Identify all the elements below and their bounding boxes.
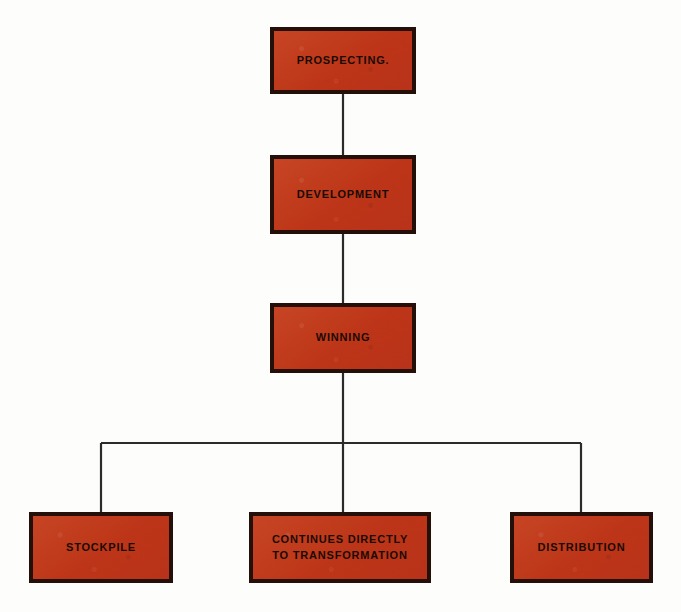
node-winning: WINNING — [270, 303, 416, 373]
node-development: DEVELOPMENT — [270, 155, 416, 234]
node-distribution-label: DISTRIBUTION — [532, 540, 632, 556]
node-stockpile: STOCKPILE — [29, 512, 173, 583]
flowchart-diagram: PROSPECTING. DEVELOPMENT WINNING STOCKPI… — [0, 0, 681, 612]
node-distribution: DISTRIBUTION — [510, 512, 653, 583]
node-stockpile-label: STOCKPILE — [60, 540, 142, 556]
node-development-label: DEVELOPMENT — [291, 187, 396, 203]
node-winning-label: WINNING — [310, 330, 376, 346]
node-continues-label: CONTINUES DIRECTLY TO TRANSFORMATION — [266, 532, 414, 564]
node-prospecting-label: PROSPECTING. — [291, 53, 396, 69]
node-prospecting: PROSPECTING. — [270, 27, 416, 94]
node-continues-to-transformation: CONTINUES DIRECTLY TO TRANSFORMATION — [249, 512, 431, 583]
